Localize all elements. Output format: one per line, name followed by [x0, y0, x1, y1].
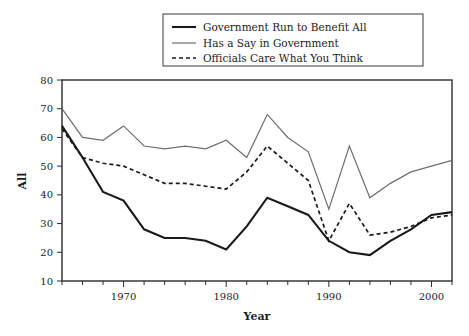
legend-label: Has a Say in Government — [203, 37, 339, 49]
y-tick-label: 70 — [40, 103, 53, 114]
line-chart: 1020304050607080 1970198019902000 All Ye… — [0, 0, 469, 336]
y-axis-ticks: 1020304050607080 — [40, 75, 62, 287]
x-tick-label: 1980 — [213, 291, 238, 302]
y-tick-label: 10 — [40, 276, 53, 287]
plot-frame — [62, 80, 452, 281]
x-tick-label: 1990 — [316, 291, 341, 302]
series-line-officials-care-what-you-think — [62, 129, 452, 241]
x-axis-ticks: 1970198019902000 — [62, 281, 452, 302]
x-tick-label: 2000 — [419, 291, 444, 302]
y-tick-label: 40 — [40, 189, 53, 200]
series-lines — [62, 109, 452, 255]
legend-label: Government Run to Benefit All — [203, 21, 367, 33]
series-line-government-run-to-benefit-all — [62, 126, 452, 255]
x-axis-title: Year — [243, 310, 271, 323]
y-tick-label: 60 — [40, 132, 53, 143]
y-tick-label: 30 — [40, 218, 53, 229]
x-tick-label: 1970 — [111, 291, 136, 302]
y-tick-label: 20 — [40, 247, 53, 258]
y-tick-label: 50 — [40, 161, 53, 172]
legend: Government Run to Benefit All Has a Say … — [163, 14, 423, 66]
y-axis-title: All — [16, 173, 29, 191]
legend-label: Officials Care What You Think — [203, 52, 364, 64]
y-tick-label: 80 — [40, 75, 53, 86]
chart-page: 1020304050607080 1970198019902000 All Ye… — [0, 0, 469, 336]
